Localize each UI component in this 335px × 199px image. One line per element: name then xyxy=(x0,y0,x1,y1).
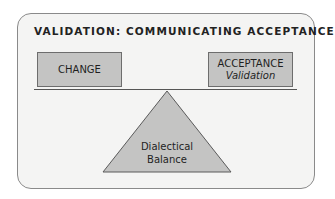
fulcrum-label-line1: Dialectical xyxy=(102,140,232,153)
diagram-title: VALIDATION: COMMUNICATING ACCEPTANCE xyxy=(34,25,335,37)
fulcrum-label-line2: Balance xyxy=(102,153,232,166)
diagram-frame: VALIDATION: COMMUNICATING ACCEPTANCE CHA… xyxy=(17,13,315,189)
acceptance-label: ACCEPTANCE xyxy=(218,58,284,70)
validation-sublabel: Validation xyxy=(226,70,276,82)
change-label: CHANGE xyxy=(58,64,101,76)
fulcrum-label: Dialectical Balance xyxy=(102,140,232,166)
acceptance-box: ACCEPTANCE Validation xyxy=(208,52,293,87)
change-box: CHANGE xyxy=(37,52,122,87)
